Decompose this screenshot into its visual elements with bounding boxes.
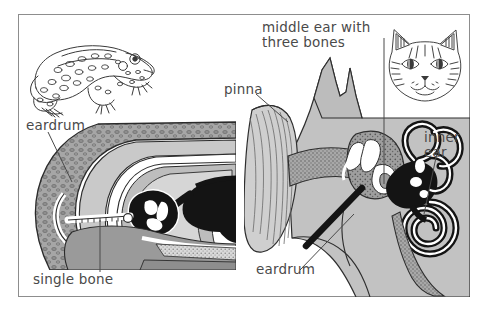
label-inner-ear: inner ear — [424, 130, 460, 159]
label-pinna: pinna — [224, 82, 263, 97]
label-middle-ear: middle ear with three bones — [262, 20, 370, 49]
frog-leader-lines — [24, 120, 236, 290]
frog-illustration — [22, 26, 162, 118]
label-frog-eardrum: eardrum — [26, 118, 85, 133]
label-cat-eardrum: eardrum — [256, 262, 315, 277]
biology-figure: eardrum single bone — [0, 0, 492, 313]
label-frog-single-bone: single bone — [33, 272, 113, 287]
